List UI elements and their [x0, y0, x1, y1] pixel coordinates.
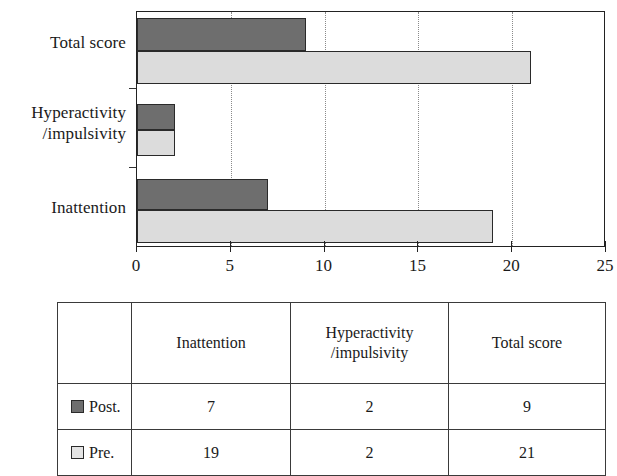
x-axis-tick-label: 5 — [208, 256, 252, 276]
category-label-total-score: Total score — [0, 32, 126, 53]
x-axis-tick-label: 15 — [395, 256, 439, 276]
bar-group-total-score — [137, 12, 604, 90]
legend-cell-post: Post. — [58, 384, 132, 430]
x-axis-tick-label: 25 — [583, 256, 617, 276]
x-axis-tick — [417, 241, 418, 252]
category-label-line: Total score — [0, 32, 126, 53]
bar-group-inattention — [137, 169, 604, 247]
table-header-total-score: Total score — [449, 303, 606, 384]
cell-post-inattention: 7 — [132, 384, 291, 430]
cell-pre-hyperactivity: 2 — [291, 430, 449, 476]
table-header-hyperactivity: Hyperactivity /impulsivity — [291, 303, 449, 384]
cell-pre-inattention: 19 — [132, 430, 291, 476]
category-label-line: /impulsivity — [0, 123, 126, 144]
x-axis-tick-label: 0 — [114, 256, 158, 276]
table-row: Post. 7 2 9 — [58, 384, 606, 430]
legend-swatch-icon — [71, 400, 84, 413]
bar-group-hyperactivity — [137, 90, 604, 169]
x-axis-tick-label: 20 — [489, 256, 533, 276]
legend-label: Post. — [89, 398, 121, 415]
bar-hyperactivity-pre — [137, 130, 175, 156]
x-axis-tick — [605, 241, 606, 252]
category-axis-labels: Total score Hyperactivity /impulsivity I… — [0, 10, 130, 248]
table-header-row: Inattention Hyperactivity /impulsivity T… — [58, 303, 606, 384]
table-row: Pre. 19 2 21 — [58, 430, 606, 476]
cell-pre-total-score: 21 — [449, 430, 606, 476]
x-axis-tick — [230, 241, 231, 252]
summary-data-table: Inattention Hyperactivity /impulsivity T… — [57, 302, 606, 476]
cell-post-hyperactivity: 2 — [291, 384, 449, 430]
table-header-inattention: Inattention — [132, 303, 291, 384]
category-label-line: Hyperactivity — [0, 102, 126, 123]
bar-inattention-post — [137, 179, 268, 210]
x-axis-tick-label: 10 — [302, 256, 346, 276]
x-axis-tick — [511, 241, 512, 252]
header-line: Hyperactivity — [291, 323, 448, 343]
header-line: Total score — [449, 333, 605, 353]
x-axis-tick — [136, 241, 137, 252]
x-axis-line — [136, 246, 605, 247]
legend-cell-pre: Pre. — [58, 430, 132, 476]
bar-total-score-pre — [137, 51, 531, 84]
legend-label: Pre. — [89, 444, 114, 461]
bar-chart-figure: Total score Hyperactivity /impulsivity I… — [0, 0, 617, 292]
header-line: /impulsivity — [291, 343, 448, 363]
table-header-legend-blank — [58, 303, 132, 384]
category-label-inattention: Inattention — [0, 197, 126, 218]
plot-area — [136, 11, 605, 247]
bar-hyperactivity-post — [137, 104, 175, 130]
x-axis-tick — [324, 241, 325, 252]
category-label-line: Inattention — [0, 197, 126, 218]
category-label-hyperactivity: Hyperactivity /impulsivity — [0, 102, 126, 144]
legend-swatch-icon — [71, 446, 84, 459]
header-line: Inattention — [132, 333, 290, 353]
bar-total-score-post — [137, 18, 306, 51]
bar-inattention-pre — [137, 210, 493, 243]
cell-post-total-score: 9 — [449, 384, 606, 430]
